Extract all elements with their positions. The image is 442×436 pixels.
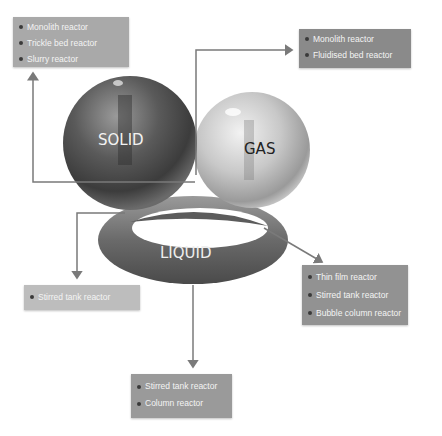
bullet-icon xyxy=(30,295,34,299)
bullet-icon xyxy=(305,53,309,57)
list-item: Stirred tank reactor xyxy=(137,378,226,395)
gas-phase-label: GAS xyxy=(244,140,275,158)
bullet-icon xyxy=(308,293,312,297)
list-item: Slurry reactor xyxy=(19,51,123,67)
list-item: Trickle bed reactor xyxy=(19,35,123,51)
bullet-icon xyxy=(137,385,141,389)
liquid-right-reactors-box: Thin film reactor Stirred tank reactor B… xyxy=(302,265,408,325)
bullet-icon xyxy=(308,311,312,315)
list-item: Monolith reactor xyxy=(19,19,123,35)
bullet-icon xyxy=(19,57,23,61)
list-item: Bubble column reactor xyxy=(308,304,402,322)
solid-reactors-box: Monolith reactor Trickle bed reactor Slu… xyxy=(13,17,129,67)
bullet-icon xyxy=(305,37,309,41)
bullet-icon xyxy=(137,402,141,406)
bullet-icon xyxy=(19,25,23,29)
list-item: Monolith reactor xyxy=(305,31,405,47)
liquid-phase-label: LIQUID xyxy=(160,244,212,262)
list-item: Stirred tank reactor xyxy=(308,286,402,304)
list-item: Stirred tank reactor xyxy=(30,289,134,305)
bullet-icon xyxy=(19,41,23,45)
liquid-bottom-reactors-box: Stirred tank reactor Column reactor xyxy=(131,374,232,418)
list-item: Column reactor xyxy=(137,395,226,412)
list-item: Fluidised bed reactor xyxy=(305,47,405,63)
solid-phase-label: SOLID xyxy=(98,131,144,149)
gas-reactors-box: Monolith reactor Fluidised bed reactor xyxy=(299,29,411,68)
bullet-icon xyxy=(308,275,312,279)
liquid-left-reactors-box: Stirred tank reactor xyxy=(24,285,140,310)
list-item: Thin film reactor xyxy=(308,268,402,286)
